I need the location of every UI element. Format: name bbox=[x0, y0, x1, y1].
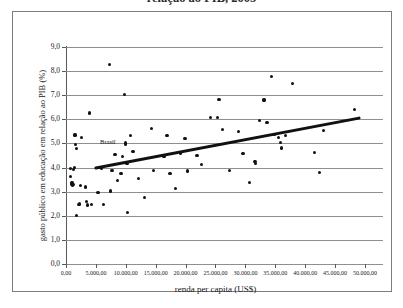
y-axis-tick-label: 8,0 bbox=[51, 67, 60, 75]
x-axis-tick bbox=[335, 264, 336, 268]
x-axis-tick bbox=[275, 264, 276, 268]
x-axis-tick-label: 50.000,00 bbox=[353, 270, 377, 276]
y-axis-tick bbox=[62, 95, 66, 96]
y-axis-tick-label: 7,0 bbox=[51, 91, 60, 99]
x-axis-tick bbox=[215, 264, 216, 268]
x-axis-tick-label: 0,00 bbox=[61, 270, 72, 276]
x-axis-tick-label: 40.000,00 bbox=[293, 270, 317, 276]
x-axis-tick bbox=[365, 264, 366, 268]
y-axis-tick-label: 6,0 bbox=[51, 116, 60, 124]
annotation-brasil: Brasil bbox=[100, 139, 116, 146]
y-axis-tick bbox=[62, 240, 66, 241]
y-axis-tick bbox=[62, 71, 66, 72]
x-axis-tick bbox=[96, 264, 97, 268]
y-axis-tick bbox=[62, 47, 66, 48]
y-axis-tick bbox=[62, 216, 66, 217]
y-axis-tick-label: 9,0 bbox=[51, 43, 60, 51]
x-axis-tick bbox=[305, 264, 306, 268]
y-axis-tick-label: 5,0 bbox=[51, 140, 60, 148]
y-axis-tick bbox=[62, 168, 66, 169]
x-axis-tick bbox=[66, 264, 67, 268]
y-axis-tick-label: 1,0 bbox=[51, 236, 60, 244]
y-axis-tick bbox=[62, 192, 66, 193]
y-axis-tick bbox=[62, 143, 66, 144]
x-axis-title: renda per capita (US$) bbox=[66, 284, 365, 294]
figure-frame: Brasil 0,01,02,03,04,05,06,07,08,09,00,0… bbox=[12, 11, 392, 292]
x-axis-tick-label: 25.000,00 bbox=[203, 270, 227, 276]
x-axis-tick-label: 15.000,00 bbox=[144, 270, 168, 276]
x-axis-tick-label: 10.000,00 bbox=[114, 270, 138, 276]
y-axis-tick bbox=[62, 119, 66, 120]
figure-caption: relação ao PIB, 2005 bbox=[0, 0, 403, 5]
x-axis-tick bbox=[186, 264, 187, 268]
y-axis-tick-label: 4,0 bbox=[51, 164, 60, 172]
x-axis-tick-label: 45.000,00 bbox=[323, 270, 347, 276]
x-axis-tick-label: 30.000,00 bbox=[233, 270, 257, 276]
plot-area: Brasil 0,01,02,03,04,05,06,07,08,09,00,0… bbox=[66, 47, 383, 264]
trendline bbox=[66, 47, 383, 264]
y-axis-tick-label: 2,0 bbox=[51, 212, 60, 220]
x-axis-tick bbox=[156, 264, 157, 268]
y-axis-title: gasto público em educação em relação ao … bbox=[35, 47, 49, 264]
x-axis-tick bbox=[126, 264, 127, 268]
x-axis-tick-label: 20.000,00 bbox=[174, 270, 198, 276]
y-axis-tick-label: 0,0 bbox=[51, 260, 60, 268]
x-axis-tick-label: 5.000,00 bbox=[85, 270, 106, 276]
x-axis-tick-label: 35.000,00 bbox=[263, 270, 287, 276]
x-axis-tick bbox=[245, 264, 246, 268]
y-axis-tick-label: 3,0 bbox=[51, 188, 60, 196]
